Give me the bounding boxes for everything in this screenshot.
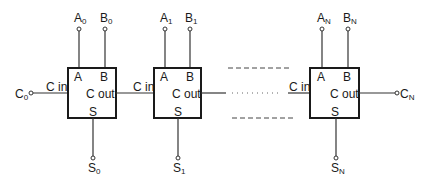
adder-0-pin-b: B xyxy=(100,70,108,84)
b1-terminal xyxy=(188,27,192,31)
adder-1-pin-cin: C in xyxy=(133,80,154,94)
adder-n-pin-cin: C in xyxy=(289,80,310,94)
sn-terminal xyxy=(334,156,338,160)
adder-1-pin-cout: C out xyxy=(172,87,201,101)
c0-label: C0 xyxy=(15,87,29,102)
adder-0-pin-a: A xyxy=(74,70,82,84)
adder-0-pin-s: S xyxy=(89,105,97,119)
ripple-carry-adder-diagram: A0 B0 C0 A B C in C out S S0 A1 B1 A B C… xyxy=(0,0,423,187)
adder-n: AN BN A B C in C out S SN CN xyxy=(289,11,415,176)
an-label: AN xyxy=(317,11,331,26)
a0-terminal xyxy=(77,27,81,31)
adder-n-pin-a: A xyxy=(317,70,325,84)
s1-label: S1 xyxy=(173,161,186,176)
b1-label: B1 xyxy=(185,11,198,26)
adder-1: A1 B1 A B C in C out S S1 xyxy=(133,11,201,176)
adder-n-pin-s: S xyxy=(331,105,339,119)
adder-0: A0 B0 C0 A B C in C out S S0 xyxy=(15,11,116,176)
cn-terminal xyxy=(395,91,399,95)
bn-label: BN xyxy=(343,11,357,26)
s0-label: S0 xyxy=(88,161,101,176)
adder-n-pin-b: B xyxy=(343,70,351,84)
ellipsis-continuation xyxy=(228,68,294,118)
an-terminal xyxy=(320,27,324,31)
adder-1-pin-s: S xyxy=(174,105,182,119)
adder-0-pin-cin: C in xyxy=(46,80,67,94)
b0-label: B0 xyxy=(100,11,113,26)
adder-n-pin-cout: C out xyxy=(330,87,359,101)
c0-terminal xyxy=(29,91,33,95)
cn-label: CN xyxy=(400,87,415,102)
adder-1-pin-b: B xyxy=(186,70,194,84)
adder-1-pin-a: A xyxy=(160,70,168,84)
b0-terminal xyxy=(103,27,107,31)
adder-0-pin-cout: C out xyxy=(86,87,115,101)
a0-label: A0 xyxy=(74,11,87,26)
bn-terminal xyxy=(346,27,350,31)
a1-terminal xyxy=(163,27,167,31)
a1-label: A1 xyxy=(160,11,173,26)
s1-terminal xyxy=(176,156,180,160)
s0-terminal xyxy=(91,156,95,160)
sn-label: SN xyxy=(331,161,345,176)
